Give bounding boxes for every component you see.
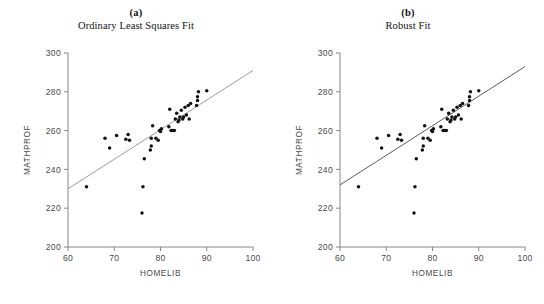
scatter-point: [445, 129, 449, 133]
scatter-point: [461, 102, 465, 106]
scatter-point: [413, 185, 417, 189]
scatter-point: [167, 125, 171, 129]
scatter-point: [387, 134, 391, 138]
y-tick-label: 240: [46, 165, 61, 175]
x-tick-label: 80: [155, 253, 165, 263]
panel-b-axis-labels: 20022024026028030060708090100HOMELIBMATH…: [295, 48, 533, 278]
scatter-point: [150, 137, 154, 141]
scatter-point: [452, 108, 456, 112]
scatter-point: [187, 117, 191, 121]
x-axis-title: HOMELIB: [140, 269, 181, 278]
scatter-point: [174, 117, 178, 121]
y-axis-title: MATHPROF: [23, 125, 32, 175]
panel-a-data-points: [85, 89, 209, 215]
scatter-point: [398, 133, 402, 137]
scatter-point: [422, 144, 426, 148]
scatter-point: [196, 99, 200, 103]
panel-b-axes: [336, 53, 525, 251]
scatter-point: [151, 124, 155, 128]
scatter-point: [468, 99, 472, 103]
scatter-point: [415, 157, 419, 161]
x-tick-label: 70: [381, 253, 391, 263]
scatter-point: [173, 129, 177, 133]
scatter-point: [357, 185, 361, 189]
scatter-point: [375, 137, 379, 141]
panel-b-data-points: [357, 89, 481, 215]
scatter-point: [149, 148, 153, 152]
panel-b-plot: 20022024026028030060708090100HOMELIBMATH…: [272, 0, 544, 304]
x-axis-title: HOMELIB: [412, 269, 453, 278]
x-tick-label: 60: [63, 253, 73, 263]
y-tick-label: 300: [46, 48, 61, 58]
scatter-point: [205, 89, 209, 93]
scatter-point: [128, 139, 132, 143]
scatter-point: [180, 108, 184, 112]
y-tick-label: 260: [318, 126, 333, 136]
y-tick-label: 260: [46, 126, 61, 136]
panel-a-axis-labels: 20022024026028030060708090100HOMELIBMATH…: [23, 48, 261, 278]
scatter-point: [124, 138, 128, 142]
scatter-point: [446, 117, 450, 121]
scatter-point: [428, 139, 432, 143]
scatter-point: [457, 113, 461, 117]
x-tick-label: 70: [109, 253, 119, 263]
scatter-point: [183, 106, 187, 110]
scatter-point: [439, 125, 443, 129]
scatter-point: [396, 138, 400, 142]
scatter-point: [477, 89, 481, 93]
y-tick-label: 280: [318, 87, 333, 97]
scatter-point: [422, 137, 426, 141]
scatter-point: [85, 185, 89, 189]
panel-b: (b) Robust Fit 2002202402602803006070809…: [272, 0, 544, 304]
scatter-point: [432, 127, 436, 131]
x-tick-label: 100: [517, 253, 532, 263]
scatter-point: [126, 133, 130, 137]
scatter-point: [469, 90, 473, 94]
panel-b-fit-line: [340, 67, 525, 185]
x-tick-label: 90: [474, 253, 484, 263]
panel-a-axes: [64, 53, 253, 251]
scatter-point: [108, 146, 112, 150]
y-tick-label: 280: [46, 87, 61, 97]
scatter-point: [197, 90, 201, 94]
scatter-point: [150, 144, 154, 148]
scatter-point: [196, 95, 200, 99]
panel-a: (a) Ordinary Least Squares Fit 200220240…: [0, 0, 272, 304]
x-tick-label: 80: [427, 253, 437, 263]
y-tick-label: 200: [318, 242, 333, 252]
scatter-point: [140, 211, 144, 215]
scatter-point: [143, 157, 147, 161]
scatter-point: [175, 111, 179, 115]
scatter-point: [412, 211, 416, 215]
scatter-point: [447, 111, 451, 115]
scatter-point: [168, 108, 172, 112]
x-tick-label: 100: [245, 253, 260, 263]
y-tick-label: 240: [318, 165, 333, 175]
scatter-point: [440, 108, 444, 112]
scatter-point: [195, 104, 199, 108]
y-tick-label: 200: [46, 242, 61, 252]
scatter-point: [455, 106, 459, 110]
panel-a-plot: 20022024026028030060708090100HOMELIBMATH…: [0, 0, 272, 304]
scatter-point: [467, 104, 471, 108]
scatter-point: [421, 148, 425, 152]
figure-two-panel-scatter: (a) Ordinary Least Squares Fit 200220240…: [0, 0, 544, 304]
scatter-point: [160, 127, 164, 131]
scatter-point: [459, 117, 463, 121]
scatter-point: [189, 102, 193, 106]
y-tick-label: 220: [318, 203, 333, 213]
x-tick-label: 60: [335, 253, 345, 263]
scatter-point: [185, 113, 189, 117]
scatter-point: [156, 139, 160, 143]
x-tick-label: 90: [202, 253, 212, 263]
scatter-point: [103, 137, 107, 141]
scatter-point: [115, 134, 119, 138]
scatter-point: [400, 139, 404, 143]
scatter-point: [380, 146, 384, 150]
y-axis-title: MATHPROF: [295, 125, 304, 175]
scatter-point: [468, 95, 472, 99]
y-tick-label: 220: [46, 203, 61, 213]
scatter-point: [423, 124, 427, 128]
y-tick-label: 300: [318, 48, 333, 58]
scatter-point: [141, 185, 145, 189]
